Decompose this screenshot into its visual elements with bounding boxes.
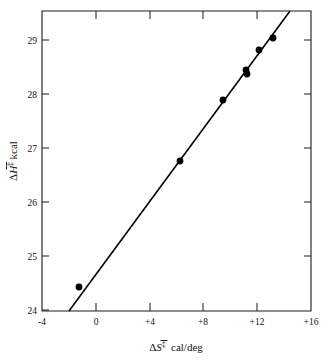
data-point [220, 97, 227, 104]
y-tick-label-24: 24 [28, 306, 38, 316]
y-tick-label-26: 26 [28, 198, 38, 208]
x-tick-label-0: 0 [94, 317, 99, 327]
x-axis-ticks [96, 303, 257, 311]
x-axis-ticks-top [96, 11, 257, 19]
x-axis-title: ΔS‡ cal/deg [149, 340, 203, 353]
y-axis-ticks-right [304, 40, 311, 256]
x-title-units-text: cal/deg [171, 341, 203, 353]
data-point [177, 158, 184, 165]
data-points [76, 35, 277, 291]
scatter-plot: 29 28 27 26 25 24 -4 0 +4 +8 +12 +16 [0, 0, 328, 363]
svg-text:ΔS‡ cal/deg: ΔS‡ cal/deg [149, 340, 203, 353]
y-title-delta: Δ [7, 174, 19, 181]
svg-text:ΔH‡ kcal: ΔH‡ kcal [6, 141, 19, 181]
y-tick-label-28: 28 [28, 90, 38, 100]
data-point [76, 284, 83, 291]
x-tick-label-plus16: +16 [304, 317, 319, 327]
x-tick-label-minus4: -4 [38, 317, 46, 327]
x-title-delta: Δ [149, 341, 156, 353]
data-point [270, 35, 277, 42]
axes-frame [42, 11, 311, 311]
x-axis-tick-labels: -4 0 +4 +8 +12 +16 [38, 317, 319, 327]
data-point [256, 47, 263, 54]
data-point [244, 71, 251, 78]
x-tick-label-plus12: +12 [250, 317, 265, 327]
x-tick-label-plus8: +8 [198, 317, 208, 327]
figure-container: 29 28 27 26 25 24 -4 0 +4 +8 +12 +16 [0, 0, 328, 363]
y-axis-title: ΔH‡ kcal [6, 141, 19, 181]
y-title-units-text: kcal [7, 141, 19, 159]
plot-frame [42, 11, 311, 311]
y-axis-tick-labels: 29 28 27 26 25 24 [28, 36, 38, 316]
y-axis-ticks [42, 40, 49, 310]
y-tick-label-29: 29 [28, 36, 38, 46]
y-tick-label-25: 25 [28, 252, 38, 262]
y-tick-label-27: 27 [28, 144, 38, 154]
x-tick-label-plus4: +4 [145, 317, 155, 327]
